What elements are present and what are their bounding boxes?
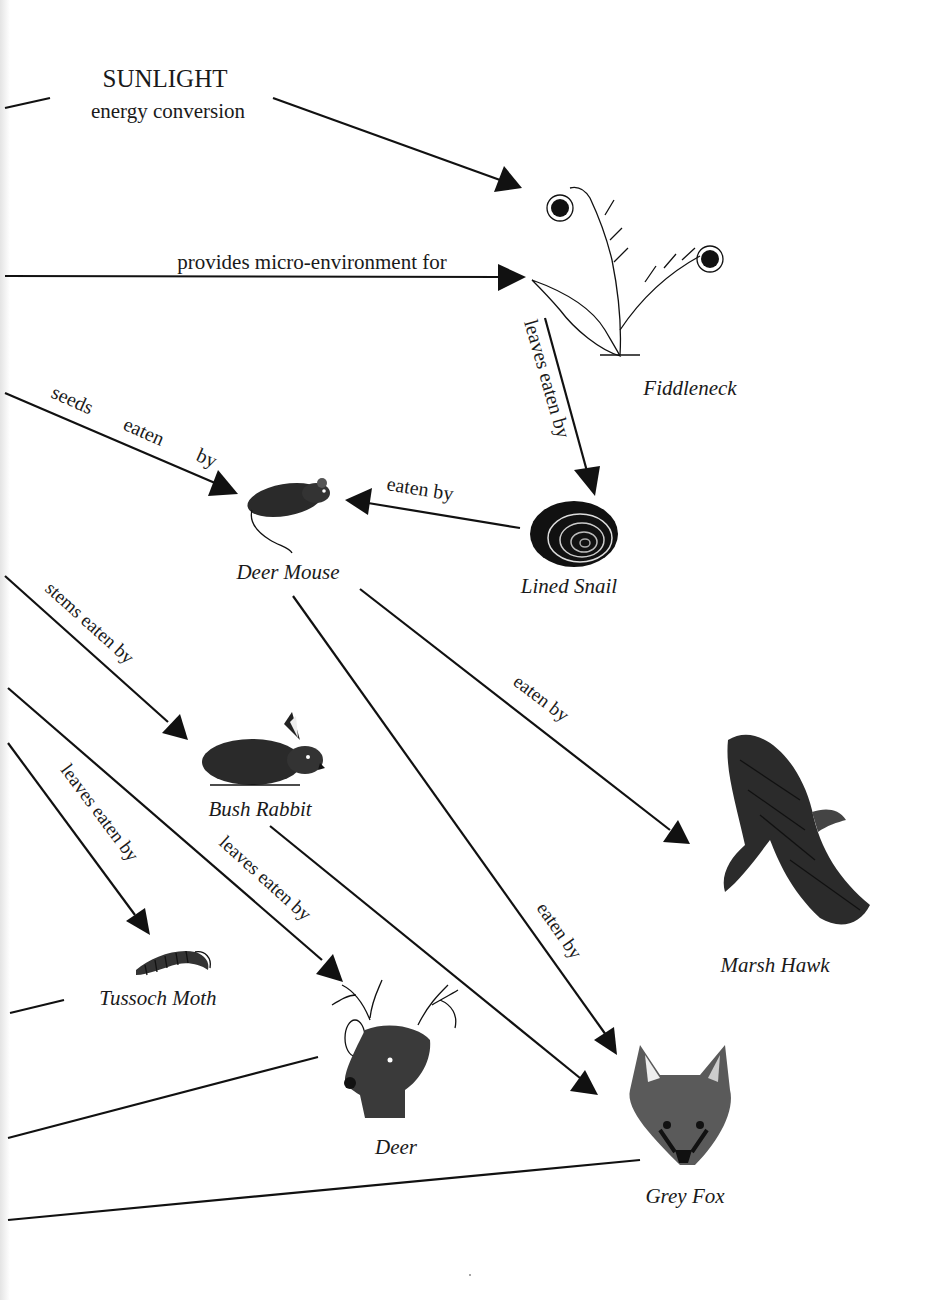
organism-name-lined-snail: Lined Snail	[520, 574, 617, 598]
edge-label-mouse-hawk: eaten by	[510, 670, 574, 725]
arrow-deer-mouse-to-hawk	[360, 589, 690, 844]
food-web-canvas: SUNLIGHT energy conversion provides micr…	[0, 0, 933, 1300]
fox-head-illustration	[629, 1045, 731, 1165]
sunlight-subtitle: energy conversion	[91, 99, 246, 123]
fox-offpage-line	[8, 1160, 640, 1220]
hawk-illustration	[724, 735, 870, 925]
fiddleneck-plant-illustration	[532, 187, 723, 356]
edge-label-mouse-fox: eaten by	[533, 898, 587, 963]
edge-label-leaves-moth: leaves eaten by	[57, 760, 144, 866]
edge-label-micro-environment: provides micro-environment for	[177, 250, 446, 274]
deer-head-illustration	[332, 980, 458, 1118]
deer-offpage-line	[8, 1057, 318, 1138]
organism-name-fiddleneck: Fiddleneck	[642, 376, 737, 400]
organism-name-tussock-moth: Tussoch Moth	[99, 986, 216, 1010]
rabbit-illustration	[202, 712, 325, 785]
organism-name-deer: Deer	[374, 1135, 418, 1159]
edge-label-seeds-by: by	[193, 444, 221, 473]
edge-label-leaves-snail: leaves eaten by	[519, 317, 575, 441]
organism-name-grey-fox: Grey Fox	[645, 1184, 725, 1208]
deer-mouse-illustration	[245, 478, 330, 553]
edge-label-seeds: seeds	[48, 381, 97, 419]
moth-offpage-line	[10, 1000, 64, 1013]
arrow-rabbit-to-fox	[270, 826, 598, 1095]
food-web-diagram: SUNLIGHT energy conversion provides micr…	[0, 0, 933, 1300]
organism-name-marsh-hawk: Marsh Hawk	[719, 953, 830, 977]
arrow-deer-mouse-to-fox	[293, 596, 617, 1055]
edge-label-snail-mouse: eaten by	[385, 472, 455, 505]
organism-name-deer-mouse: Deer Mouse	[235, 560, 339, 584]
caterpillar-illustration	[136, 951, 210, 975]
edge-label-seeds-eaten: eaten	[120, 413, 167, 450]
print-speck	[469, 1274, 471, 1276]
organism-name-bush-rabbit: Bush Rabbit	[208, 797, 312, 821]
sunlight-offpage-line	[5, 98, 50, 108]
arrow-stems-to-rabbit	[5, 576, 188, 740]
arrow-sunlight-to-fiddleneck	[273, 98, 522, 192]
snail-illustration	[530, 501, 618, 567]
sunlight-title: SUNLIGHT	[103, 65, 228, 92]
